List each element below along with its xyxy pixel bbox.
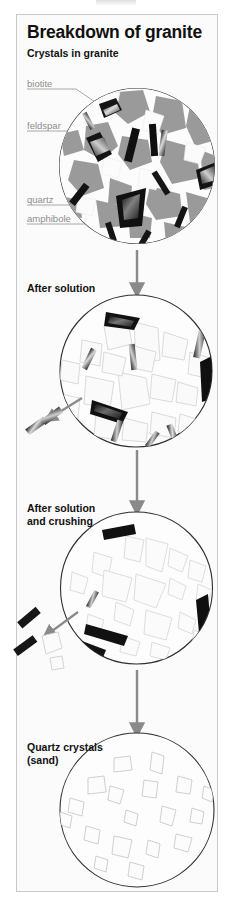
page-title: Breakdown of granite: [27, 22, 217, 42]
callout-label-feldspar: feldspar: [27, 120, 61, 131]
heading-line-2: and crushing: [27, 515, 93, 527]
stage-3-after-crushing-circle: [61, 512, 213, 664]
callout-label-amphibole: amphibole: [27, 213, 71, 224]
granite-breakdown-illustration: [0, 0, 232, 906]
section-heading-quartz-crystals-sand: Quartz crystals (sand): [27, 741, 103, 766]
figure-root: Breakdown of granite Crystals in granite…: [0, 0, 232, 906]
heading-line-1: After solution: [27, 502, 95, 514]
section-heading-crystals-in-granite: Crystals in granite: [27, 47, 119, 60]
stage-2-after-solution-circle: [60, 295, 214, 448]
heading-line-1: Quartz crystals: [27, 741, 103, 753]
stage-1-granite-circle: [59, 88, 224, 246]
callout-label-biotite: biotite: [27, 78, 52, 89]
callout-label-quartz: quartz: [27, 194, 53, 205]
section-heading-after-solution-and-crushing: After solution and crushing: [27, 502, 95, 527]
escaping-fragments-stage2: [25, 398, 82, 435]
section-heading-after-solution: After solution: [27, 282, 95, 295]
heading-line-2: (sand): [27, 754, 59, 766]
